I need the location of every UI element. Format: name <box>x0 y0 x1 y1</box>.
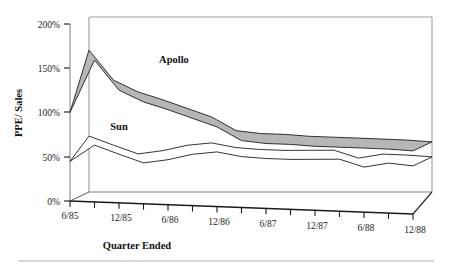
y-axis <box>64 24 70 201</box>
y-tick-labels: 200% 150% 100% 50% 0% <box>38 20 60 207</box>
y-tick-label-0: 0% <box>47 197 60 207</box>
chart-container: 200% 150% 100% 50% 0% PPE/ Sales <box>0 0 452 269</box>
x-tick-label-3: 12/86 <box>208 217 230 227</box>
series-label-apollo: Apollo <box>159 54 189 65</box>
x-tick-label-0: 6/85 <box>62 211 79 221</box>
x-tick-label-2: 6/86 <box>162 215 179 225</box>
apollo-ribbon <box>70 50 432 151</box>
y-tick-label-50: 50% <box>43 153 61 163</box>
y-tick-label-100: 100% <box>38 108 60 118</box>
y-tick-label-150: 150% <box>38 64 60 74</box>
series-label-sun: Sun <box>110 121 128 132</box>
line-chart-3d: 200% 150% 100% 50% 0% PPE/ Sales <box>0 0 452 269</box>
x-axis-title: Quarter Ended <box>103 240 172 251</box>
series-apollo <box>70 50 432 151</box>
chart-back-wall <box>89 17 432 192</box>
x-tick-label-1: 12/85 <box>110 213 132 223</box>
x-tick-labels: 6/85 12/85 6/86 12/86 6/87 12/87 6/88 12… <box>62 211 427 235</box>
x-tick-label-7: 12/88 <box>404 225 426 235</box>
x-tick-label-4: 6/87 <box>260 219 277 229</box>
y-axis-title: PPE/ Sales <box>13 89 24 137</box>
x-tick-label-6: 6/88 <box>358 223 375 233</box>
y-tick-label-200: 200% <box>38 20 60 30</box>
x-tick-label-5: 12/87 <box>306 221 328 231</box>
